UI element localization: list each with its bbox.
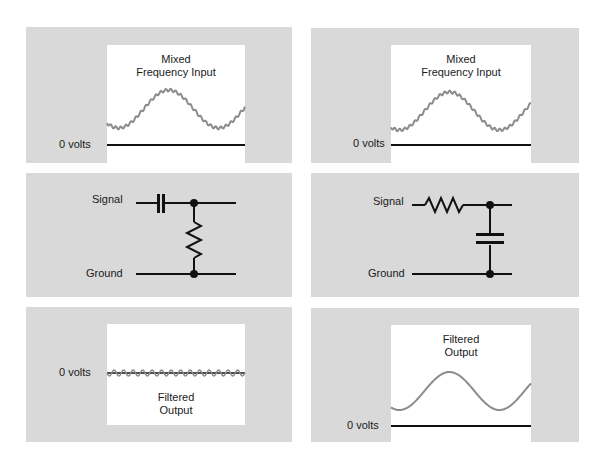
left-input-panel: Mixed Frequency Input 0 volts [26,27,292,163]
right-input-waveform [311,28,579,163]
capacitor-icon [476,233,504,244]
right-output-waveform [311,308,579,442]
right-input-panel: Mixed Frequency Input 0 volts [311,28,579,163]
right-output-panel: Filtered Output 0 volts [311,308,579,442]
left-input-waveform [26,27,292,163]
low-pass-circuit-diagram [311,173,579,297]
resistor-icon [425,198,463,212]
left-circuit-panel: Signal Ground [26,173,292,297]
left-output-waveform [26,307,292,442]
junction-dot-icon [486,201,494,209]
capacitor-icon [157,194,165,213]
left-output-panel: 0 volts Filtered Output [26,307,292,442]
junction-dot-icon [486,270,494,278]
high-pass-circuit-diagram [26,173,292,297]
junction-dot-icon [190,199,198,207]
junction-dot-icon [190,270,198,278]
right-circuit-panel: Signal Ground [311,173,579,297]
